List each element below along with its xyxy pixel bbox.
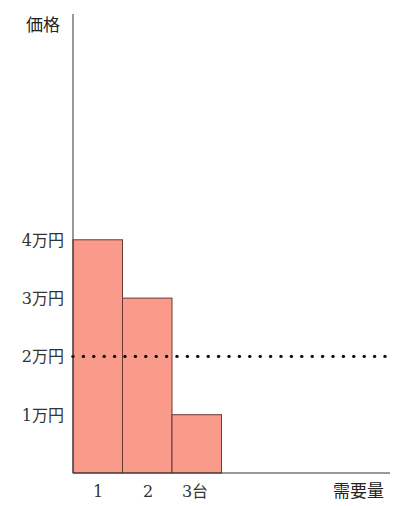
x-tick-label: 3台 [182, 482, 208, 501]
y-tick-labels: 1万円2万円3万円4万円 [22, 231, 64, 425]
x-tick-label: 1 [93, 482, 103, 501]
y-tick-label: 3万円 [22, 289, 64, 308]
x-tick-labels: 123台 [93, 482, 208, 501]
bar-3 [172, 415, 222, 473]
y-tick-label: 2万円 [22, 347, 64, 366]
x-tick-label: 2 [143, 482, 153, 501]
x-axis-title: 需要量 [333, 481, 384, 501]
demand-bar-chart: 価格 需要量 1万円2万円3万円4万円 123台 [0, 0, 403, 506]
y-tick-label: 1万円 [22, 406, 64, 425]
y-axis-title: 価格 [26, 15, 60, 35]
bar-2 [123, 298, 173, 473]
y-tick-label: 4万円 [22, 231, 64, 250]
